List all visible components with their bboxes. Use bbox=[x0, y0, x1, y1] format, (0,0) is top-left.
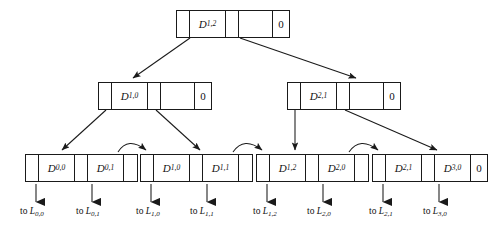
edge-root-to-internal-right bbox=[240, 38, 356, 78]
pointer-cell bbox=[257, 155, 270, 181]
edge-root-to-internal-left bbox=[133, 38, 190, 78]
label-prefix: to bbox=[253, 206, 263, 216]
pointer-cell bbox=[99, 83, 112, 109]
key-cell: D2,0 bbox=[319, 155, 355, 181]
null-cell: 0 bbox=[384, 83, 400, 109]
leaf-target-label-to-L-0-1: to L0,1 bbox=[76, 206, 100, 218]
node-leaf-1: D1,0D1,1 bbox=[140, 154, 253, 182]
label-subscript: 0,0 bbox=[35, 210, 44, 218]
pointer-cell bbox=[306, 155, 319, 181]
pointer-cell bbox=[288, 83, 301, 109]
key-cell: D1,1 bbox=[203, 155, 239, 181]
edge-leaf-0-to-leaf-1 bbox=[118, 143, 146, 152]
pointer-cell bbox=[337, 83, 350, 109]
key-cell: D2,1 bbox=[386, 155, 422, 181]
label-subscript: 1,0 bbox=[151, 210, 160, 218]
label-subscript: 1,1 bbox=[205, 210, 214, 218]
node-root: D1,20 bbox=[176, 10, 290, 38]
leaf-target-label-to-L-1-1: to L1,1 bbox=[190, 206, 214, 218]
node-internal-left: D1,00 bbox=[98, 82, 212, 110]
key-subscript: 1,0 bbox=[129, 92, 138, 100]
key-subscript: 0,0 bbox=[56, 164, 65, 172]
pointer-cell bbox=[75, 155, 88, 181]
key-cell: D1,2 bbox=[270, 155, 306, 181]
pointer-cell bbox=[355, 155, 368, 181]
key-subscript: 1,2 bbox=[287, 164, 296, 172]
key-subscript: 1,2 bbox=[207, 20, 216, 28]
label-prefix: to bbox=[307, 206, 317, 216]
pointer-cell bbox=[141, 155, 154, 181]
diagram-canvas: D1,20D1,00D2,10D0,0D0,1D1,0D1,1D1,2D2,0D… bbox=[0, 0, 498, 236]
leaf-target-label-to-L-1-2: to L1,2 bbox=[253, 206, 277, 218]
key-subscript: 2,0 bbox=[336, 164, 345, 172]
key-cell: D1,2 bbox=[190, 11, 226, 37]
label-prefix: to bbox=[190, 206, 200, 216]
edge-leaf-2-to-leaf-3 bbox=[349, 143, 378, 152]
pointer-cell bbox=[373, 155, 386, 181]
node-internal-right: D2,10 bbox=[287, 82, 401, 110]
pointer-cell bbox=[190, 155, 203, 181]
key-subscript: 2,1 bbox=[403, 164, 412, 172]
label-subscript: 0,1 bbox=[91, 210, 100, 218]
key-cell: D3,0 bbox=[435, 155, 471, 181]
label-prefix: to bbox=[423, 206, 433, 216]
node-leaf-0: D0,0D0,1 bbox=[25, 154, 138, 182]
key-cell: D2,1 bbox=[301, 83, 337, 109]
leaf-target-label-to-L-2-1: to L2,1 bbox=[369, 206, 393, 218]
pointer-cell bbox=[239, 155, 252, 181]
edge-internal-left-to-leaf-1 bbox=[156, 110, 200, 150]
pointer-cell bbox=[226, 11, 239, 37]
key-cell: D0,0 bbox=[39, 155, 75, 181]
label-subscript: 1,2 bbox=[268, 210, 277, 218]
leaf-target-label-to-L-0-0: to L0,0 bbox=[20, 206, 44, 218]
label-prefix: to bbox=[369, 206, 379, 216]
leaf-target-label-to-L-1-0: to L1,0 bbox=[136, 206, 160, 218]
label-subscript: 2,1 bbox=[384, 210, 393, 218]
node-leaf-3: D2,1D3,00 bbox=[372, 154, 488, 182]
node-leaf-2: D1,2D2,0 bbox=[256, 154, 369, 182]
pointer-cell bbox=[239, 11, 273, 37]
key-subscript: 1,0 bbox=[171, 164, 180, 172]
pointer-cell bbox=[26, 155, 39, 181]
pointer-cell bbox=[350, 83, 384, 109]
key-subscript: 3,0 bbox=[452, 164, 461, 172]
pointer-cell bbox=[422, 155, 435, 181]
null-cell: 0 bbox=[471, 155, 487, 181]
edge-leaf-1-to-leaf-2 bbox=[233, 143, 262, 152]
pointer-cell bbox=[124, 155, 137, 181]
null-cell: 0 bbox=[273, 11, 289, 37]
key-subscript: 2,1 bbox=[318, 92, 327, 100]
label-subscript: 2,0 bbox=[322, 210, 331, 218]
label-prefix: to bbox=[20, 206, 30, 216]
label-prefix: to bbox=[136, 206, 146, 216]
null-cell: 0 bbox=[195, 83, 211, 109]
key-subscript: 1,1 bbox=[220, 164, 229, 172]
pointer-cell bbox=[161, 83, 195, 109]
leaf-target-label-to-L-2-0: to L2,0 bbox=[307, 206, 331, 218]
edge-internal-left-to-leaf-0 bbox=[62, 110, 106, 150]
label-subscript: 3,0 bbox=[438, 210, 447, 218]
key-cell: D0,1 bbox=[88, 155, 124, 181]
key-subscript: 0,1 bbox=[105, 164, 114, 172]
label-prefix: to bbox=[76, 206, 86, 216]
leaf-down-arrows bbox=[36, 184, 439, 202]
edge-internal-right-to-leaf-3 bbox=[345, 110, 437, 150]
key-cell: D1,0 bbox=[154, 155, 190, 181]
key-cell: D1,0 bbox=[112, 83, 148, 109]
leaf-target-label-to-L-3-0: to L3,0 bbox=[423, 206, 447, 218]
pointer-cell bbox=[148, 83, 161, 109]
pointer-cell bbox=[177, 11, 190, 37]
